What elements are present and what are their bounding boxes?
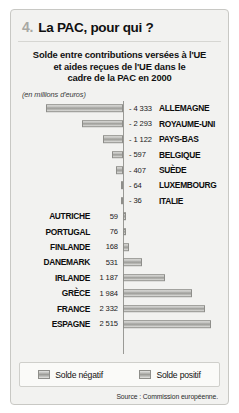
bar-zone <box>20 132 123 147</box>
bar-country-label: BELGIQUE <box>159 150 200 160</box>
chart-row-positive: FRANCE2 332 <box>20 301 219 316</box>
bar-negative <box>116 166 123 174</box>
card-header: 4. La PAC, pour qui ? <box>18 16 221 42</box>
legend-label-negative: Solde négatif <box>55 370 103 380</box>
diverging-bar-chart: - 4 333ALLEMAGNE- 2 293ROYAUME-UNI- 1 12… <box>20 101 219 356</box>
bar-value-label: - 2 293 <box>123 119 159 128</box>
bar-country-label: SUÈDE <box>159 165 186 175</box>
bar-value-label: 2 515 <box>90 319 123 328</box>
bar-negative <box>121 197 124 205</box>
bar-value-label: 1 984 <box>90 289 123 298</box>
bar-value-label: - 597 <box>123 150 159 159</box>
bar-zone <box>123 209 219 224</box>
legend-item-negative: Solde négatif <box>38 370 103 380</box>
header-number: 4. <box>22 19 33 35</box>
legend-item-positive: Solde positif <box>139 370 200 380</box>
bar-negative <box>103 135 123 143</box>
bar-value-label: - 64 <box>123 181 159 190</box>
bar-country-label: ROYAUME-UNI <box>159 119 215 129</box>
bar-country-label: ESPAGNE <box>20 319 90 329</box>
bar-zone <box>123 255 219 270</box>
bar-country-label: PORTUGAL <box>20 227 90 237</box>
page-title: La PAC, pour qui ? <box>38 20 153 35</box>
chart-row-positive: AUTRICHE59 <box>20 209 219 224</box>
bar-value-label: - 36 <box>123 196 159 205</box>
bar-positive <box>123 259 142 267</box>
bar-value-label: 531 <box>90 258 123 267</box>
bar-value-label: 168 <box>90 242 123 251</box>
bar-zone <box>20 162 123 177</box>
bar-country-label: GRÈCE <box>20 288 90 298</box>
chart-row-negative: - 597BELGIQUE <box>20 147 219 162</box>
chart-row-positive: GRÈCE1 984 <box>20 285 219 300</box>
chart-row-negative: - 2 293ROYAUME-UNI <box>20 116 219 131</box>
bar-positive <box>123 212 126 220</box>
bar-country-label: IRLANDE <box>20 273 90 283</box>
chart-row-positive: DANEMARK531 <box>20 255 219 270</box>
chart-title-line-2: et aides reçues de l'UE dans le <box>24 61 215 73</box>
bar-value-label: 59 <box>90 212 123 221</box>
chart-row-positive: PORTUGAL76 <box>20 224 219 239</box>
bar-zone <box>20 116 123 131</box>
bar-value-label: - 4 333 <box>123 104 159 113</box>
chart-row-positive: IRLANDE1 187 <box>20 270 219 285</box>
chart-legend: Solde négatif Solde positif <box>19 362 220 387</box>
bar-positive <box>123 274 165 282</box>
bar-zone <box>20 147 123 162</box>
infographic-card: 4. La PAC, pour qui ? Solde entre contri… <box>10 9 229 405</box>
chart-row-positive: ESPAGNE2 515 <box>20 316 219 331</box>
bar-country-label: FINLANDE <box>20 242 90 252</box>
bar-positive <box>123 243 129 251</box>
bar-zone <box>123 239 219 254</box>
bar-value-label: 76 <box>90 227 123 236</box>
bar-positive <box>123 289 192 297</box>
chart-row-negative: - 64LUXEMBOURG <box>20 178 219 193</box>
legend-swatch-negative-icon <box>38 370 50 379</box>
bar-zone <box>20 178 123 193</box>
bar-country-label: LUXEMBOURG <box>159 180 217 190</box>
bar-positive <box>123 320 211 328</box>
bar-zone <box>123 301 219 316</box>
bar-country-label: FRANCE <box>20 304 90 314</box>
chart-row-positive: FINLANDE168 <box>20 239 219 254</box>
bar-positive <box>123 228 126 236</box>
bar-zone <box>20 101 123 116</box>
bar-zone <box>20 193 123 208</box>
chart-row-negative: - 36ITALIE <box>20 193 219 208</box>
chart-title-line-3: cadre de la PAC en 2000 <box>24 72 215 84</box>
bar-negative <box>82 120 123 128</box>
bar-value-label: - 407 <box>123 166 159 175</box>
bar-value-label: 2 332 <box>90 304 123 313</box>
chart-row-negative: - 407SUÈDE <box>20 162 219 177</box>
bar-negative <box>46 105 123 113</box>
chart-title-line-1: Solde entre contributions versées à l'UE <box>24 49 215 61</box>
legend-swatch-positive-icon <box>139 370 151 379</box>
chart-rows: - 4 333ALLEMAGNE- 2 293ROYAUME-UNI- 1 12… <box>20 101 219 332</box>
bar-value-label: - 1 122 <box>123 135 159 144</box>
bar-zone <box>123 316 219 331</box>
legend-label-positive: Solde positif <box>156 370 200 380</box>
chart-row-negative: - 1 122PAYS-BAS <box>20 132 219 147</box>
source-note: Source : Commission européenne. <box>18 387 221 400</box>
bar-positive <box>123 305 205 313</box>
bar-value-label: 1 187 <box>90 273 123 282</box>
chart-title: Solde entre contributions versées à l'UE… <box>18 42 221 84</box>
bar-country-label: PAYS-BAS <box>159 134 199 144</box>
chart-units-label: (en millions d'euros) <box>18 84 221 101</box>
bar-negative <box>112 151 123 159</box>
bar-zone <box>123 270 219 285</box>
infographic-page: 4. La PAC, pour qui ? Solde entre contri… <box>0 0 239 413</box>
chart-row-negative: - 4 333ALLEMAGNE <box>20 101 219 116</box>
bar-zone <box>123 224 219 239</box>
bar-negative <box>121 182 124 190</box>
bar-country-label: ALLEMAGNE <box>159 103 209 113</box>
bar-country-label: DANEMARK <box>20 257 90 267</box>
bar-country-label: AUTRICHE <box>20 211 90 221</box>
bar-country-label: ITALIE <box>159 196 183 206</box>
bar-zone <box>123 285 219 300</box>
